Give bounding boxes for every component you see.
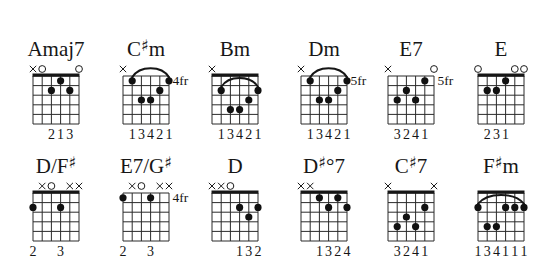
fretboard: 132 [209, 183, 262, 259]
finger-dot [492, 87, 499, 94]
chord-diagram: D 132 [200, 117, 289, 262]
finger-number: 3 [483, 244, 490, 259]
muted-string-icon [384, 66, 390, 72]
chord-f-sharp-minor: F♯m 134111 [466, 117, 555, 234]
chord-name: E7/G♯ [120, 153, 172, 178]
finger-dot [129, 77, 136, 84]
finger-dot [306, 77, 313, 84]
muted-string-icon [120, 66, 126, 72]
nut [212, 74, 259, 77]
chord-chart: Amaj7 213 C♯m 4fr13421 Bm 13421 Dm 5fr13… [0, 0, 556, 276]
fret-position-label: 4fr [173, 190, 189, 205]
finger-dot [147, 96, 154, 103]
finger-dot [138, 96, 145, 103]
chord-c-sharp-7: C♯7 3241 [376, 117, 466, 234]
open-string-icon [48, 183, 55, 190]
muted-string-icon [66, 183, 72, 189]
open-string-icon [138, 183, 145, 190]
chord-name: D/F♯ [35, 153, 75, 178]
muted-string-icon [430, 183, 436, 189]
chord-name: E7 [399, 37, 422, 61]
finger-dot [315, 194, 322, 201]
finger-number: 3 [325, 244, 332, 259]
chord-diagram: D/F♯ 23 [21, 117, 110, 262]
finger-dot [393, 96, 400, 103]
muted-string-icon [297, 66, 303, 72]
finger-number: 2 [29, 244, 36, 259]
finger-number: 3 [147, 244, 154, 259]
finger-dot [502, 204, 509, 211]
finger-number: 3 [393, 244, 400, 259]
nut [32, 191, 79, 194]
muted-string-icon [39, 183, 45, 189]
finger-number: 2 [402, 244, 409, 259]
finger-dot [502, 77, 509, 84]
fret-position-label: 4fr [173, 73, 189, 88]
finger-dot [511, 204, 518, 211]
muted-string-icon [297, 183, 303, 189]
open-string-icon [38, 66, 45, 73]
finger-dot [334, 194, 341, 201]
chord-name: D♯°7 [303, 153, 345, 178]
open-string-icon [520, 66, 527, 73]
finger-dot [236, 106, 243, 113]
finger-dot [325, 96, 332, 103]
finger-dot [245, 96, 252, 103]
open-string-icon [511, 66, 518, 73]
finger-number: 2 [255, 244, 262, 259]
finger-dot [57, 77, 64, 84]
open-string-icon [75, 66, 82, 73]
nut [212, 191, 259, 194]
finger-number: 1 [511, 244, 518, 259]
nut [32, 74, 79, 77]
finger-dot [254, 204, 261, 211]
finger-dot [57, 204, 64, 211]
finger-number: 4 [412, 244, 419, 259]
chord-e7-over-g-sharp: E7/G♯ 4fr23 [111, 117, 200, 234]
finger-dot [483, 223, 490, 230]
finger-dot [421, 204, 428, 211]
nut [300, 191, 347, 194]
finger-dot [325, 204, 332, 211]
finger-number: 3 [245, 244, 252, 259]
finger-dot [492, 223, 499, 230]
finger-number: 1 [315, 244, 322, 259]
finger-dot [119, 194, 126, 201]
nut [477, 74, 524, 77]
muted-string-icon [218, 183, 224, 189]
finger-dot [156, 87, 163, 94]
finger-dot [66, 87, 73, 94]
muted-string-icon [209, 183, 215, 189]
fretboard: 3241 [384, 183, 436, 259]
muted-string-icon [29, 66, 35, 72]
muted-string-icon [75, 183, 81, 189]
chord-name: C♯7 [394, 153, 426, 178]
finger-number: 2 [120, 244, 127, 259]
finger-number: 1 [421, 244, 428, 259]
finger-number: 4 [492, 244, 499, 259]
chord-e-7: E7 5fr3241 [376, 0, 466, 117]
finger-dot [147, 194, 154, 201]
open-string-icon [474, 66, 481, 73]
chord-a-major-7: Amaj7 213 [21, 0, 112, 117]
finger-number: 1 [502, 244, 509, 259]
chord-d-major: D 132 [200, 117, 289, 234]
muted-string-icon [157, 183, 163, 189]
fret-position-label: 5fr [350, 73, 366, 88]
open-string-icon [430, 66, 437, 73]
muted-string-icon [307, 183, 313, 189]
finger-dot [412, 96, 419, 103]
chord-c-sharp-minor: C♯m 4fr13421 [111, 0, 200, 117]
finger-number: 2 [334, 244, 341, 259]
finger-dot [402, 87, 409, 94]
chord-grid: Amaj7 213 C♯m 4fr13421 Bm 13421 Dm 5fr13… [21, 0, 555, 234]
finger-number: 3 [57, 244, 64, 259]
finger-dot [245, 213, 252, 220]
fretboard: 23 [29, 183, 82, 259]
chord-b-minor: Bm 13421 [200, 0, 289, 117]
chord-d-over-f-sharp: D/F♯ 23 [21, 117, 112, 234]
chord-e-major: E 231 [466, 0, 555, 117]
fretboard: 1324 [297, 183, 350, 259]
finger-dot [483, 87, 490, 94]
chord-name: Amaj7 [27, 37, 84, 61]
